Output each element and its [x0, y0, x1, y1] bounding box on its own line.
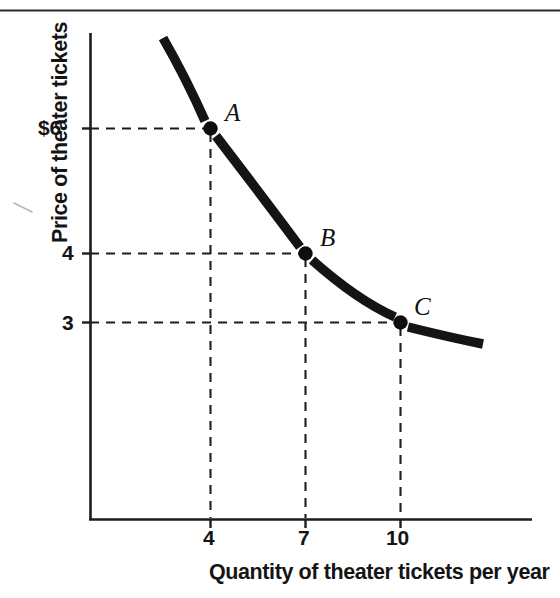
demand-curve-segment-3 — [312, 260, 395, 317]
guide-lines — [90, 129, 401, 519]
demand-curve-segment-4 — [408, 327, 483, 344]
x-tick-label-7: 7 — [298, 527, 309, 548]
y-tick-label-4: 4 — [62, 242, 73, 263]
data-point-A[interactable] — [203, 121, 217, 135]
scan-artifact — [14, 203, 32, 212]
point-label-a: A — [225, 100, 240, 125]
y-tick-label-6: $6 — [38, 117, 61, 138]
demand-curve-figure: Price of theater tickets $6 4 3 4 7 10 Q… — [0, 0, 560, 598]
chart-canvas — [0, 0, 560, 598]
x-axis-title: Quantity of theater tickets per year — [209, 562, 549, 584]
axis-lines — [89, 33, 532, 520]
data-point-B[interactable] — [298, 246, 312, 260]
y-tick-label-3: 3 — [62, 312, 73, 333]
data-point-C[interactable] — [393, 315, 407, 329]
x-tick-label-4: 4 — [203, 527, 214, 548]
y-axis-ticks — [82, 129, 90, 323]
x-tick-label-10: 10 — [386, 527, 409, 548]
demand-curve-segment-1 — [163, 38, 205, 121]
point-label-b: B — [320, 225, 335, 250]
point-label-c: C — [414, 294, 431, 319]
demand-curve-segment-2 — [216, 136, 300, 247]
